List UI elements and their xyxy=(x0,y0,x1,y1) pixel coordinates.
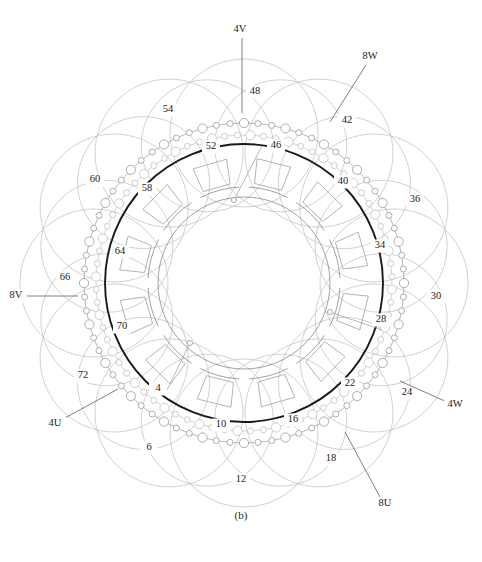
coil-end-loop-layer-secondary xyxy=(41,80,447,486)
conductor-node-inner-49 xyxy=(104,337,110,343)
ref-label-54: 54 xyxy=(163,103,174,114)
conductor-node-outer-34 xyxy=(269,438,275,444)
conductor-node-inner-41 xyxy=(173,411,179,417)
conductor-node-outer-38 xyxy=(213,438,219,444)
conductor-node-outer-1 xyxy=(255,121,261,127)
conductor-node-outer-37 xyxy=(227,439,233,445)
conductor-node-outer-57 xyxy=(85,237,94,246)
conductor-node-outer-49 xyxy=(96,348,102,354)
conductor-node-outer-59 xyxy=(96,212,102,218)
core-inner-arc-2 xyxy=(330,239,340,278)
conductor-node-outer-19 xyxy=(400,294,406,300)
conductor-node-outer-31 xyxy=(309,425,315,431)
phase-label-8W: 8W xyxy=(362,50,377,61)
conductor-node-inner-50 xyxy=(100,325,106,331)
ref-label-16: 16 xyxy=(288,413,299,424)
conductor-node-inner-39 xyxy=(195,420,204,429)
conductor-node-outer-48 xyxy=(101,358,110,367)
phase-label-8V: 8V xyxy=(10,289,23,300)
conductor-node-outer-55 xyxy=(82,266,88,272)
ref-label-34: 34 xyxy=(375,239,386,250)
conductor-node-outer-36 xyxy=(239,438,248,447)
conductor-node-inner-67 xyxy=(184,143,190,149)
ref-label-24: 24 xyxy=(402,386,413,397)
conductor-node-outer-33 xyxy=(281,433,290,442)
conductor-node-outer-66 xyxy=(159,140,168,149)
ref-label-22: 22 xyxy=(345,377,356,388)
conductor-node-outer-53 xyxy=(82,294,88,300)
conductor-node-outer-21 xyxy=(394,320,403,329)
conductor-node-inner-45 xyxy=(130,378,139,387)
conductor-node-inner-29 xyxy=(321,405,327,411)
conductor-node-inner-64 xyxy=(151,163,157,169)
phase-terminal-layer: 4V8W4W8U4U8V xyxy=(5,23,466,511)
conductor-node-inner-68 xyxy=(197,139,203,145)
conductor-node-outer-71 xyxy=(227,121,233,127)
core-inner-arc-5 xyxy=(249,369,288,379)
conductor-node-inner-23 xyxy=(372,348,378,354)
conductor-node-outer-8 xyxy=(344,157,350,163)
inner-leader-dot-dot-top xyxy=(231,197,236,202)
conductor-node-inner-16 xyxy=(388,261,394,267)
conductor-node-inner-66 xyxy=(171,147,180,156)
conductor-node-inner-54 xyxy=(92,272,101,281)
conductor-node-inner-4 xyxy=(298,143,304,149)
conductor-node-outer-58 xyxy=(91,225,97,231)
ref-label-40: 40 xyxy=(338,175,349,186)
ref-label-30: 30 xyxy=(431,290,442,301)
conductor-node-outer-12 xyxy=(378,198,387,207)
conductor-node-outer-64 xyxy=(138,157,144,163)
conductor-node-outer-35 xyxy=(255,439,261,445)
conductor-node-inner-10 xyxy=(358,190,364,196)
conductor-node-outer-56 xyxy=(83,252,89,258)
conductor-node-inner-48 xyxy=(108,347,117,356)
conductor-node-outer-23 xyxy=(386,348,392,354)
stator-slot-5 xyxy=(258,374,295,406)
conductor-node-outer-14 xyxy=(391,225,397,231)
conductor-node-inner-53 xyxy=(93,286,99,292)
conductor-node-inner-24 xyxy=(364,358,373,367)
conductor-node-inner-71 xyxy=(235,132,241,138)
conductor-node-outer-67 xyxy=(173,135,179,141)
conductor-node-outer-32 xyxy=(296,430,302,436)
stator-winding-diagram: 4610121618222428303436404246485254586064… xyxy=(0,0,482,562)
conductor-node-inner-34 xyxy=(260,427,266,433)
inner-leader-line-dot-top xyxy=(234,146,262,200)
conductor-node-outer-69 xyxy=(198,124,207,133)
conductor-node-outer-62 xyxy=(118,177,124,183)
conductor-node-inner-51 xyxy=(95,310,104,319)
ref-label-36: 36 xyxy=(410,193,421,204)
conductor-node-outer-26 xyxy=(364,383,370,389)
conductor-node-inner-46 xyxy=(124,370,130,376)
conductor-node-inner-6 xyxy=(319,154,328,163)
ref-label-52: 52 xyxy=(206,140,217,151)
conductor-node-inner-7 xyxy=(331,163,337,169)
conductor-node-outer-39 xyxy=(198,433,207,442)
conductor-node-outer-3 xyxy=(281,124,290,133)
conductor-node-inner-57 xyxy=(98,234,107,243)
ref-label-60: 60 xyxy=(90,173,101,184)
conductor-node-outer-43 xyxy=(149,411,155,417)
ref-label-48: 48 xyxy=(250,85,261,96)
conductor-node-outer-29 xyxy=(333,411,339,417)
conductor-node-inner-60 xyxy=(115,199,124,208)
conductor-node-outer-13 xyxy=(386,212,392,218)
conductor-node-outer-28 xyxy=(344,403,350,409)
ref-label-4: 4 xyxy=(155,382,161,393)
conductor-node-inner-47 xyxy=(116,360,122,366)
conductor-node-inner-17 xyxy=(389,274,395,280)
conductor-node-outer-63 xyxy=(126,165,135,174)
conductor-node-inner-43 xyxy=(151,397,157,403)
phase-label-8U: 8U xyxy=(379,497,392,508)
conductor-node-inner-28 xyxy=(331,397,337,403)
phase-leader-4U xyxy=(63,389,118,419)
conductor-node-outer-10 xyxy=(364,177,370,183)
conductor-node-inner-25 xyxy=(358,370,364,376)
coil-end-loop-secondary-7 xyxy=(78,317,210,449)
conductor-node-outer-16 xyxy=(399,252,405,258)
conductor-node-outer-70 xyxy=(213,122,219,128)
phase-label-4W: 4W xyxy=(447,398,462,409)
stator-slot-2 xyxy=(335,232,367,269)
conductor-node-outer-40 xyxy=(186,430,192,436)
ref-label-18: 18 xyxy=(326,452,337,463)
